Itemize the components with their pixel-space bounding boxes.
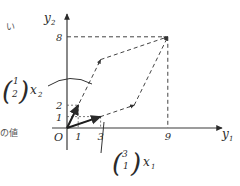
origin-label: O [54,131,63,144]
guide-lines [67,37,168,128]
x2-right-paren: ) [18,76,29,106]
svg-text:2: 2 [50,19,56,27]
x2-multiple-arrow [98,60,100,65]
vector-x2-label: ( 1 2 ) x 2 [2,76,92,106]
x2-leader-curve [48,78,92,86]
x1-component-bottom: 1 [123,161,129,171]
x1-coefficient: x [143,155,150,169]
x1-right-paren: ) [130,148,141,178]
side-text-top: い [6,22,15,32]
x2-coefficient: x [30,83,37,97]
y-tick-label-2: 2 [55,100,62,111]
x2-component-top: 1 [13,76,19,86]
x1-coefficient-sub: 1 [151,163,155,171]
vector-x1-label: ( 3 1 ) x 1 [101,122,155,178]
vector-decomposition-diagram: い の値 y 2 y 1 O 139128 ( 1 2 ) x 2 ( 3 1 … [0,0,240,186]
edge-x2-multiple-to-target [101,37,168,60]
y-tick-label-8: 8 [56,32,62,43]
edge-target-to-x1-multiple [134,37,168,105]
x2-coefficient-sub: 2 [37,91,43,99]
x-tick-label-1: 1 [75,131,81,142]
x2-component-bottom: 2 [11,89,18,99]
x-axis-label: y 1 [221,127,233,143]
x1-component-top: 3 [122,149,128,159]
svg-text:y: y [221,127,229,141]
svg-text:y: y [43,11,51,25]
y-axis-label: y 2 [43,11,56,27]
side-text-middle: の値 [0,127,18,138]
x1-multiple-arrow [129,105,134,107]
y-tick-label-1: 1 [56,112,62,123]
x-tick-label-9: 9 [165,131,172,142]
svg-text:1: 1 [229,135,233,143]
